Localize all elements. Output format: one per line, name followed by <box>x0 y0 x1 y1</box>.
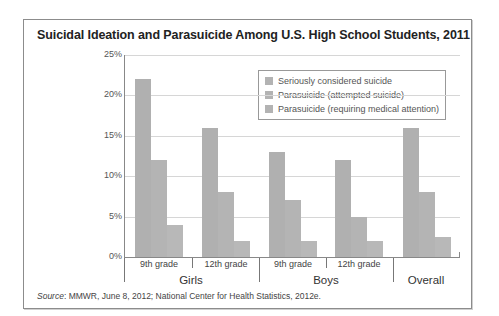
y-tick-label: 15% <box>60 130 122 140</box>
x-category-label: 9th grade <box>260 259 326 269</box>
x-group-label: Girls <box>151 274 231 286</box>
x-axis <box>124 257 460 258</box>
bar-medical <box>301 241 317 257</box>
bar-medical <box>167 225 183 257</box>
bar-medical <box>234 241 250 257</box>
bar-medical <box>435 237 451 257</box>
bar-considered <box>269 152 285 257</box>
source-note: Source: MMWR, June 8, 2012; National Cen… <box>37 291 321 301</box>
bar-considered <box>202 128 218 257</box>
axis-separator <box>259 258 260 282</box>
x-axis-end-tick <box>459 252 460 258</box>
bar-considered <box>135 79 151 257</box>
y-tick-label: 25% <box>60 49 122 59</box>
chart-title: Suicidal Ideation and Parasuicide Among … <box>37 28 470 42</box>
x-category-label: 12th grade <box>193 259 259 269</box>
y-tick-label: 5% <box>60 211 122 221</box>
y-tick-label: 10% <box>60 170 122 180</box>
legend-item-considered: Seriously considered suicide <box>265 75 392 87</box>
bar-attempted <box>419 192 435 257</box>
x-group-label: Overall <box>386 274 466 286</box>
bar-considered <box>335 160 351 257</box>
legend-swatch-icon <box>265 105 273 113</box>
bar-attempted <box>151 160 167 257</box>
y-axis <box>124 55 125 258</box>
bar-considered <box>403 128 419 257</box>
gridline <box>125 55 460 56</box>
legend-item-medical: Parasuicide (requiring medical attention… <box>265 103 439 115</box>
axis-separator <box>192 258 193 268</box>
bar-medical <box>367 241 383 257</box>
x-category-label: 9th grade <box>126 259 192 269</box>
y-tick-label: 20% <box>60 89 122 99</box>
bar-attempted <box>285 200 301 257</box>
gridline <box>125 95 460 96</box>
axis-separator <box>124 258 125 282</box>
axis-separator <box>326 258 327 268</box>
bar-attempted <box>351 217 367 257</box>
y-tick-label: 0% <box>60 251 122 261</box>
legend-swatch-icon <box>265 77 273 85</box>
bar-attempted <box>218 192 234 257</box>
x-group-label: Boys <box>286 274 366 286</box>
x-category-label: 12th grade <box>326 259 392 269</box>
